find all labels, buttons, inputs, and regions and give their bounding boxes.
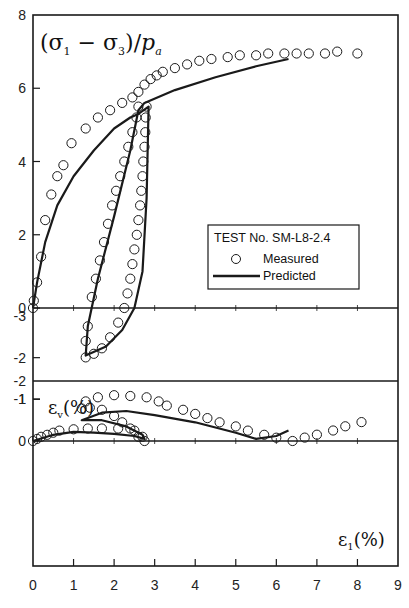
upper-measured-point bbox=[128, 93, 137, 102]
upper-measured-point bbox=[252, 51, 261, 60]
lower-measured-point bbox=[142, 393, 151, 402]
x-axis-title: ε1(%) bbox=[338, 529, 385, 552]
lower-y-tick-label: -2 bbox=[14, 350, 27, 366]
upper-measured-point bbox=[333, 47, 342, 56]
upper-measured-point bbox=[183, 60, 192, 69]
upper-measured-point bbox=[235, 51, 244, 60]
upper-y-axis-title: (σ1 − σ3)/pa bbox=[40, 30, 162, 58]
legend-title: TEST No. SM-L8-2.4 bbox=[214, 231, 331, 245]
upper-measured-point bbox=[126, 274, 135, 283]
upper-measured-point bbox=[106, 106, 115, 115]
upper-measured-point bbox=[207, 54, 216, 63]
lower-measured-point bbox=[329, 426, 338, 435]
upper-measured-point bbox=[128, 260, 137, 269]
x-tick-label: 4 bbox=[191, 577, 199, 593]
upper-measured-point bbox=[123, 289, 132, 298]
upper-measured-point bbox=[353, 49, 362, 58]
upper-measured-point bbox=[132, 230, 141, 239]
upper-y-tick-label: 8 bbox=[18, 7, 26, 23]
upper-measured-point bbox=[41, 216, 50, 225]
x-tick-label: 1 bbox=[70, 577, 78, 593]
lower-measured-point bbox=[97, 424, 106, 433]
upper-measured-point bbox=[59, 161, 68, 170]
lower-measured-point bbox=[341, 422, 350, 431]
lower-measured-point bbox=[191, 409, 200, 418]
upper-y-tick-label: -2 bbox=[14, 373, 27, 389]
upper-measured-point bbox=[67, 139, 76, 148]
x-tick-label: 3 bbox=[151, 577, 159, 593]
upper-measured-point bbox=[130, 245, 139, 254]
x-tick-label: 2 bbox=[110, 577, 118, 593]
lower-measured-point bbox=[179, 405, 188, 414]
upper-measured-point bbox=[292, 49, 301, 58]
upper-measured-point bbox=[264, 49, 273, 58]
axes-frame bbox=[33, 15, 398, 566]
lower-measured-point bbox=[243, 426, 252, 435]
lower-y-tick-label: -1 bbox=[14, 391, 27, 407]
upper-measured-point bbox=[134, 216, 143, 225]
upper-measured-point bbox=[170, 64, 179, 73]
upper-measured-point bbox=[320, 49, 329, 58]
upper-measured-point bbox=[195, 56, 204, 65]
chart-root: 012345678986420-210-1-2-3 (σ1 − σ3)/pa ε… bbox=[0, 0, 409, 608]
upper-y-tick-label: 6 bbox=[18, 80, 26, 96]
lower-measured-point bbox=[93, 393, 102, 402]
lower-measured-point bbox=[162, 401, 171, 410]
upper-measured-point bbox=[114, 318, 123, 327]
upper-predicted-line bbox=[33, 59, 289, 356]
upper-measured-point bbox=[304, 49, 313, 58]
upper-measured-point bbox=[280, 49, 289, 58]
lower-measured-point bbox=[215, 418, 224, 427]
upper-y-tick-label: 4 bbox=[18, 154, 26, 170]
upper-measured-point bbox=[81, 124, 90, 133]
plot-canvas: 012345678986420-210-1-2-3 (σ1 − σ3)/pa ε… bbox=[0, 0, 409, 608]
lower-measured-point bbox=[231, 422, 240, 431]
x-tick-label: 6 bbox=[272, 577, 280, 593]
lower-measured-point bbox=[312, 430, 321, 439]
upper-measured-point bbox=[118, 98, 127, 107]
upper-measured-point bbox=[93, 113, 102, 122]
legend: TEST No. SM-L8-2.4 Measured Predicted bbox=[208, 225, 359, 289]
x-tick-label: 7 bbox=[313, 577, 321, 593]
lower-y-tick-label: -3 bbox=[14, 308, 27, 324]
legend-measured-label: Measured bbox=[263, 252, 319, 266]
x-tick-label: 5 bbox=[232, 577, 240, 593]
x-tick-label: 8 bbox=[354, 577, 362, 593]
upper-measured-point bbox=[53, 172, 62, 181]
lower-measured-point bbox=[357, 418, 366, 427]
lower-y-axis-title: εv(%) bbox=[48, 397, 94, 420]
upper-measured-point bbox=[136, 201, 145, 210]
upper-measured-point bbox=[47, 190, 56, 199]
lower-measured-point bbox=[203, 414, 212, 423]
x-tick-label: 9 bbox=[394, 577, 402, 593]
lower-measured-point bbox=[126, 391, 135, 400]
axis-ticks bbox=[33, 88, 357, 566]
lower-y-tick-label: 0 bbox=[18, 433, 26, 449]
upper-y-tick-label: 2 bbox=[18, 227, 26, 243]
upper-measured-point bbox=[223, 53, 232, 62]
plot-border bbox=[33, 15, 398, 566]
lower-measured-point bbox=[110, 391, 119, 400]
upper-measured-point bbox=[140, 80, 149, 89]
x-tick-label: 0 bbox=[29, 577, 37, 593]
upper-measured-point bbox=[137, 186, 146, 195]
axis-tick-labels: 012345678986420-210-1-2-3 bbox=[14, 7, 403, 593]
upper-measured-point bbox=[138, 172, 147, 181]
legend-predicted-label: Predicted bbox=[263, 269, 316, 283]
